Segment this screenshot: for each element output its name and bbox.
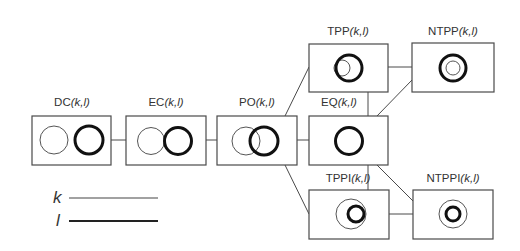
label-dc: DC(k,l) <box>54 97 90 109</box>
label-tpp-args: (k,l) <box>350 25 369 37</box>
legend-k-symbol: k <box>53 189 62 206</box>
label-eq: EQ(k,l) <box>321 97 357 109</box>
node-po-box <box>217 116 297 165</box>
label-tppi-args: (k,l) <box>351 172 370 184</box>
node-ntpp <box>412 43 494 92</box>
label-tpp-name: TPP <box>327 25 349 37</box>
label-po: PO(k,l) <box>239 97 275 109</box>
label-ntpp: NTPP(k,l) <box>428 26 478 38</box>
node-ntppi <box>413 190 493 239</box>
label-dc-args: (k,l) <box>71 96 90 108</box>
node-dc <box>32 116 111 165</box>
node-po <box>217 116 297 165</box>
label-eq-name: EQ <box>321 96 338 108</box>
node-dc-box <box>32 116 111 165</box>
label-ntpp-name: NTPP <box>428 25 459 37</box>
label-eq-args: (k,l) <box>338 96 357 108</box>
label-tpp: TPP(k,l) <box>327 26 369 38</box>
label-tppi: TPPI(k,l) <box>326 173 371 185</box>
edge-po-tpp <box>285 67 309 116</box>
label-ntppi-name: NTPPI <box>426 172 460 184</box>
label-po-name: PO <box>239 96 256 108</box>
label-po-args: (k,l) <box>256 96 275 108</box>
legend <box>69 198 158 221</box>
node-ntpp-box <box>412 43 494 92</box>
node-ntppi-box <box>413 190 493 239</box>
label-ntppi-args: (k,l) <box>460 172 479 184</box>
node-eq-box <box>309 116 388 165</box>
label-tppi-name: TPPI <box>326 172 352 184</box>
node-eq <box>309 116 388 165</box>
node-tpp <box>309 44 388 92</box>
node-tpp-box <box>309 44 388 92</box>
label-ec: EC(k,l) <box>148 97 183 109</box>
label-ntpp-args: (k,l) <box>459 25 478 37</box>
node-ec <box>126 116 206 165</box>
legend-l-symbol: l <box>56 212 60 229</box>
label-ntppi: NTPPI(k,l) <box>426 173 479 185</box>
label-dc-name: DC <box>54 96 71 108</box>
label-ec-name: EC <box>148 96 164 108</box>
label-ec-args: (k,l) <box>164 96 183 108</box>
rcc8-diagram <box>0 0 520 251</box>
node-tppi <box>309 190 389 239</box>
edge-po-tppi <box>285 165 309 214</box>
